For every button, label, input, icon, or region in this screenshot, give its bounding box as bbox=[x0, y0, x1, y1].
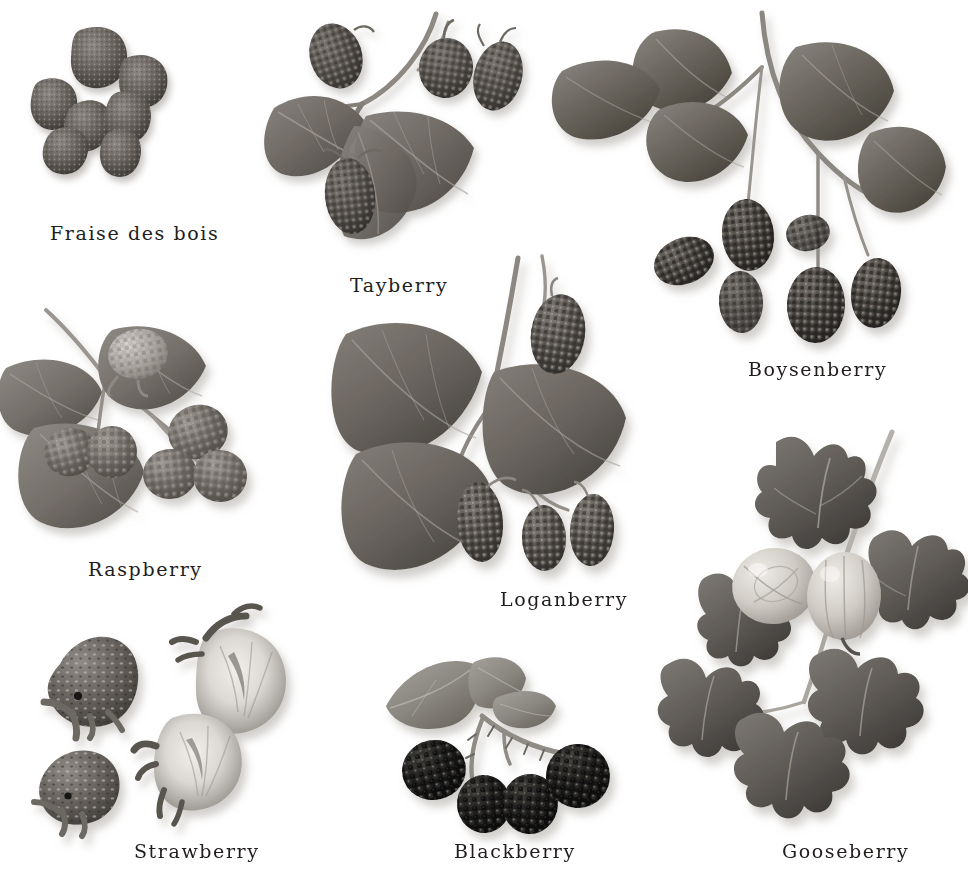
specimen-strawberry bbox=[20, 598, 340, 838]
loganberry-leaf bbox=[483, 364, 626, 494]
boysenberry-fruit bbox=[786, 266, 847, 344]
specimen-blackberry bbox=[378, 648, 658, 843]
boysenberry-fruit bbox=[717, 270, 764, 334]
boysenberry-fruit bbox=[719, 197, 777, 273]
boysenberry-leaf bbox=[779, 42, 894, 141]
specimen-fraise-des-bois bbox=[18, 18, 238, 218]
strawberry-calyx bbox=[172, 639, 196, 642]
boysenberry-fruit bbox=[783, 211, 834, 255]
strawberry-half bbox=[134, 714, 242, 824]
strawberry-calyx bbox=[62, 810, 65, 834]
boysenberry-cane bbox=[748, 67, 762, 203]
blackberry-stem bbox=[471, 720, 482, 778]
strawberry-whole bbox=[34, 750, 120, 836]
fraise-fruit bbox=[100, 129, 141, 177]
caption-gooseberry: Gooseberry bbox=[782, 840, 909, 862]
strawberry-calyx bbox=[72, 712, 77, 738]
loganberry-fruit bbox=[526, 278, 591, 377]
raspberry-leaf bbox=[0, 360, 102, 436]
caption-boysenberry: Boysenberry bbox=[748, 358, 887, 380]
caption-fraise-des-bois: Fraise des bois bbox=[50, 222, 219, 244]
boysenberry-fruit bbox=[847, 256, 904, 331]
strawberry-calyx bbox=[82, 814, 85, 836]
blackberry-stem bbox=[504, 734, 510, 764]
tayberry-fruit bbox=[301, 17, 374, 96]
loganberry-fruit bbox=[521, 490, 567, 572]
caption-strawberry: Strawberry bbox=[134, 840, 260, 862]
specimen-gooseberry bbox=[658, 418, 968, 828]
strawberry-whole bbox=[44, 637, 138, 738]
gooseberry-leaf bbox=[867, 530, 968, 629]
caption-blackberry: Blackberry bbox=[454, 840, 576, 862]
specimen-loganberry bbox=[330, 238, 630, 588]
tayberry-fruit bbox=[466, 24, 530, 116]
caption-loganberry: Loganberry bbox=[500, 588, 628, 610]
fraise-fruit bbox=[43, 127, 89, 174]
strawberry-calyx bbox=[138, 764, 156, 778]
fraise-fruit-group bbox=[31, 27, 168, 177]
strawberry-calyx bbox=[159, 790, 164, 816]
boysenberry-leaf bbox=[552, 61, 660, 140]
specimen-tayberry bbox=[258, 8, 548, 258]
boysenberry-leaf bbox=[858, 127, 946, 213]
strawberry-calyx bbox=[134, 744, 156, 750]
boysenberry-leaf bbox=[646, 102, 748, 182]
fraise-fruit bbox=[71, 27, 127, 88]
loganberry-leaf bbox=[331, 323, 482, 456]
blackberry-leaf bbox=[386, 657, 556, 729]
boysenberry-fruit bbox=[647, 228, 722, 294]
specimen-raspberry bbox=[2, 292, 282, 552]
loganberry-fruit bbox=[568, 482, 617, 567]
gooseberry-leaf bbox=[755, 437, 877, 549]
strawberry-calyx bbox=[90, 716, 93, 738]
caption-raspberry: Raspberry bbox=[88, 558, 203, 580]
raspberry-fruit bbox=[87, 426, 137, 478]
